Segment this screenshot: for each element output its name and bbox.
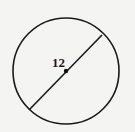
circle-diagram: 12 bbox=[0, 0, 135, 132]
diameter-label: 12 bbox=[52, 55, 65, 70]
